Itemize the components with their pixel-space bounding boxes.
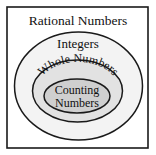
rational-numbers-label: Rational Numbers xyxy=(29,13,128,28)
counting-label-line2: Numbers xyxy=(55,96,99,110)
number-sets-diagram: Rational Numbers Integers Whole Numbers … xyxy=(0,0,156,155)
integers-label: Integers xyxy=(57,36,99,51)
counting-label-line1: Counting xyxy=(55,83,100,97)
